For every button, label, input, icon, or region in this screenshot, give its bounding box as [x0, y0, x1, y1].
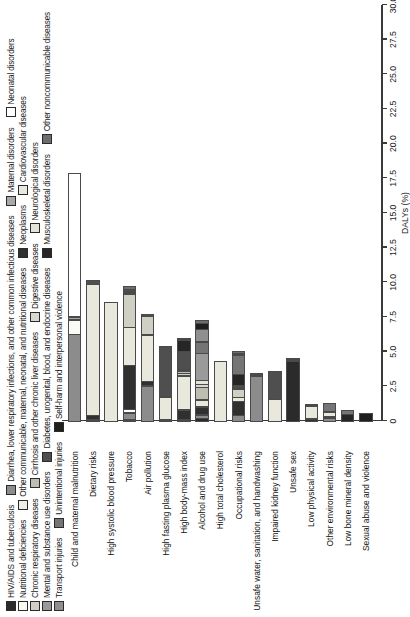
bar-row[interactable]	[305, 404, 318, 421]
bar-segment[interactable]	[177, 338, 190, 340]
bar-segment[interactable]	[232, 374, 245, 386]
bar-segment[interactable]	[195, 353, 208, 381]
category-label: Unsafe water, sanitation, and handwashin…	[252, 451, 261, 617]
bar-segment[interactable]	[141, 386, 154, 422]
bar-row[interactable]	[68, 173, 81, 421]
bar-segment[interactable]	[232, 355, 245, 374]
bar-row[interactable]	[268, 371, 281, 421]
bar-segment[interactable]	[286, 361, 299, 422]
bar-segment[interactable]	[195, 320, 208, 323]
bar-row[interactable]	[195, 320, 208, 421]
bar-segment[interactable]	[268, 371, 281, 400]
bar-row[interactable]	[177, 338, 190, 421]
axis-tick-mark	[382, 316, 387, 317]
bar-segment[interactable]	[86, 280, 99, 285]
bar-segment[interactable]	[159, 346, 172, 397]
bar-segment[interactable]	[123, 409, 136, 413]
bar-segment[interactable]	[177, 376, 190, 411]
bar-segment[interactable]	[68, 334, 81, 421]
bar-row[interactable]	[214, 361, 227, 421]
bar-segment[interactable]	[323, 403, 336, 411]
legend-item[interactable]: Other noncommunicable diseases	[42, 12, 52, 144]
bar-row[interactable]	[232, 351, 245, 421]
axis-tick-label: 22.5	[388, 101, 398, 118]
bar-row[interactable]	[86, 280, 99, 421]
bar-segment[interactable]	[232, 415, 245, 421]
bar-segment[interactable]	[123, 286, 136, 289]
legend-item[interactable]: Cirrhosis and other chronic liver diseas…	[30, 332, 40, 488]
bar-segment[interactable]	[359, 413, 372, 421]
bar-segment[interactable]	[195, 323, 208, 330]
legend-item[interactable]: Nutritional deficiencies	[18, 520, 28, 611]
legend-item[interactable]: Diabetes, urogenital, blood, and endocri…	[42, 268, 52, 462]
axis-tick-mark	[382, 142, 387, 143]
bar-segment[interactable]	[195, 329, 208, 342]
bar-segment[interactable]	[214, 361, 227, 422]
bar-segment[interactable]	[123, 365, 136, 409]
bar-segment[interactable]	[323, 412, 336, 417]
legend-row: HIV/AIDS and tuberculosisDiarrhea, lower…	[6, 5, 16, 611]
bar-row[interactable]	[159, 346, 172, 421]
bar-row[interactable]	[123, 286, 136, 421]
legend-item[interactable]: Maternal disorders	[6, 128, 16, 206]
legend-item-label: HIV/AIDS and tuberculosis	[7, 505, 16, 598]
bar-row[interactable]	[359, 413, 372, 421]
bar-segment[interactable]	[141, 316, 154, 335]
bar-segment[interactable]	[232, 389, 245, 398]
bar-row[interactable]	[250, 373, 263, 421]
bar-segment[interactable]	[68, 173, 81, 317]
bar-segment[interactable]	[305, 406, 318, 420]
legend-item[interactable]: Chronic respiratory diseases	[30, 498, 40, 611]
bar-segment[interactable]	[250, 376, 263, 422]
bar-segment[interactable]	[195, 380, 208, 385]
axis-tick-mark	[382, 281, 387, 282]
legend-item[interactable]: Musculoskeletal disorders	[42, 154, 52, 257]
legend-item[interactable]: HIV/AIDS and tuberculosis	[6, 505, 16, 611]
bar-segment[interactable]	[123, 294, 136, 327]
bar-segment[interactable]	[86, 415, 99, 420]
bar-segment[interactable]	[268, 399, 281, 421]
bar-segment[interactable]	[86, 284, 99, 416]
bar-row[interactable]	[286, 358, 299, 421]
bar-segment[interactable]	[104, 302, 117, 421]
bar-segment[interactable]	[341, 414, 354, 422]
bar-row[interactable]	[323, 403, 336, 421]
bar-segment[interactable]	[286, 358, 299, 360]
bar-segment[interactable]	[68, 320, 81, 335]
bar-segment[interactable]	[232, 351, 245, 354]
legend-item[interactable]: Neurological disorders	[30, 142, 40, 233]
bar-segment[interactable]	[305, 404, 318, 406]
bar-segment[interactable]	[195, 342, 208, 354]
bar-segment[interactable]	[177, 410, 190, 420]
bar-segment[interactable]	[232, 401, 245, 416]
axis-title: DALYs (%)	[400, 192, 410, 234]
bar-segment[interactable]	[141, 314, 154, 316]
bar-segment[interactable]	[232, 397, 245, 402]
legend-swatch-icon	[6, 601, 16, 611]
legend-item[interactable]: Other communicable, maternal, neonatal, …	[18, 268, 28, 510]
bar-row[interactable]	[341, 410, 354, 421]
bar-segment[interactable]	[195, 387, 208, 400]
legend-item[interactable]: Neoplasms	[18, 205, 28, 258]
axis-tick-mark	[382, 108, 387, 109]
bar-segment[interactable]	[123, 413, 136, 421]
legend-item[interactable]: Cardiovascular diseases	[18, 96, 28, 195]
bar-segment[interactable]	[159, 397, 172, 421]
legend-item[interactable]: Digestive diseases	[30, 243, 40, 322]
bar-segment[interactable]	[123, 327, 136, 366]
bar-segment[interactable]	[195, 407, 208, 415]
bar-segment[interactable]	[177, 351, 190, 370]
bar-segment[interactable]	[177, 340, 190, 352]
bar-row[interactable]	[141, 314, 154, 421]
bar-segment[interactable]	[195, 415, 208, 419]
legend-item[interactable]: Mental and substance use disorders	[42, 472, 52, 611]
legend-item[interactable]: Diarrhea, lower respiratory infections, …	[6, 216, 16, 495]
axis-baseline	[381, 5, 382, 421]
bar-row[interactable]	[104, 302, 117, 421]
bar-segment[interactable]	[250, 373, 263, 375]
bar-segment[interactable]	[341, 410, 354, 415]
bar-segment[interactable]	[141, 381, 154, 386]
bar-segment[interactable]	[195, 400, 208, 408]
bar-segment[interactable]	[141, 335, 154, 382]
legend-item[interactable]: Neonatal disorders	[6, 38, 16, 117]
